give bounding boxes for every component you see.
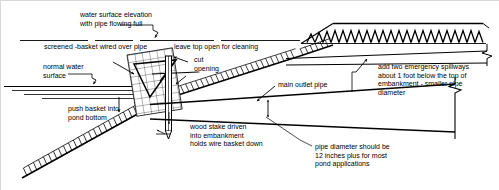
label-screened-basket: screened -basket wired over pipe [44, 43, 147, 52]
wire-mesh-basket [127, 48, 182, 116]
label-leave-top-open: leave top open for cleaning [174, 43, 258, 52]
main-outlet-pipe-leader [257, 86, 275, 101]
label-push-basket: push basket into pond bottom [68, 105, 119, 122]
pipe-diameter-dimension [266, 100, 312, 146]
label-wood-stake: wood stake driven into embankment holds … [190, 123, 263, 149]
label-emergency-spillways: add two emergency spillways about 1 foot… [378, 63, 469, 97]
wood-stake [166, 56, 172, 139]
label-main-outlet-pipe: main outlet pipe [278, 81, 327, 90]
pond-outlet-diagram: water surface elevation with pipe flowin… [0, 0, 499, 190]
label-normal-water-surface: normal water surface [43, 63, 83, 80]
label-cut-opening: cut opening [194, 56, 219, 73]
label-water-surface-elevation: water surface elevation with pipe flowin… [80, 11, 152, 28]
normal-water-surface-lines [4, 87, 146, 99]
label-pipe-diameter: pipe diameter should be 12 inches plus f… [315, 143, 390, 169]
embankment-top-berm [301, 24, 489, 44]
